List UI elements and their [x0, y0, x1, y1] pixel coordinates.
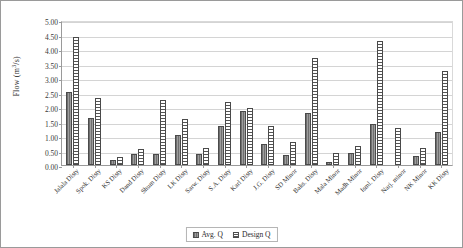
y-axis-tick-label: 0.00	[45, 163, 58, 172]
bar-design-q	[203, 148, 209, 165]
bar-avg-q	[261, 144, 267, 165]
bar-avg-q	[413, 156, 419, 165]
bar-design-q	[73, 37, 79, 165]
bar-avg-q	[326, 162, 332, 165]
bar-group	[430, 22, 452, 165]
bar-design-q	[182, 119, 188, 165]
bar-avg-q	[175, 135, 181, 165]
bar-avg-q	[153, 154, 159, 165]
bar-avg-q	[240, 111, 246, 165]
y-axis-tick-label: 3.00	[45, 76, 58, 85]
bar-avg-q	[88, 118, 94, 165]
y-axis-tick-label: 0.50	[45, 148, 58, 157]
bar-group	[409, 22, 431, 165]
bar-group	[149, 22, 171, 165]
bar-design-q	[290, 142, 296, 165]
bar-group	[214, 22, 236, 165]
bar-avg-q	[283, 155, 289, 165]
bar-group	[192, 22, 214, 165]
bar-design-q	[247, 108, 253, 165]
x-axis-tick-label: Karl Disty	[229, 167, 254, 192]
bar-group	[257, 22, 279, 165]
bar-avg-q	[305, 113, 311, 165]
y-axis-tick-label: 4.00	[45, 47, 58, 56]
bar-series-container	[62, 22, 452, 165]
y-axis-title: Flow (m3/s)	[11, 33, 22, 119]
y-axis-tick-label: 2.50	[45, 90, 58, 99]
bar-avg-q	[435, 132, 441, 165]
bar-design-q	[268, 126, 274, 165]
bar-group	[105, 22, 127, 165]
bar-group	[365, 22, 387, 165]
bar-avg-q	[110, 160, 116, 165]
chart-figure: Flow (m3/s) 0.000.501.001.502.002.503.00…	[0, 0, 463, 248]
bar-group	[235, 22, 257, 165]
bar-design-q	[95, 98, 101, 165]
bar-design-q	[442, 71, 448, 165]
bar-design-q	[312, 58, 318, 165]
bar-group	[322, 22, 344, 165]
bar-design-q	[117, 157, 123, 165]
bar-avg-q	[348, 153, 354, 165]
legend-swatch-design-q	[233, 232, 239, 238]
y-axis-title-exponent: 3	[11, 65, 17, 68]
y-axis-title-tail: /s)	[12, 56, 21, 65]
bar-avg-q	[218, 126, 224, 165]
x-axis-labels: Jalala DistySpok. DistyKS DistyDand Dist…	[61, 167, 453, 223]
bar-design-q	[333, 153, 339, 165]
y-axis-title-text: Flow (m	[12, 68, 21, 97]
bar-group	[387, 22, 409, 165]
bar-avg-q	[66, 92, 72, 165]
plot-area: 0.000.501.001.502.002.503.003.504.004.50…	[61, 21, 453, 166]
bar-group	[62, 22, 84, 165]
bar-design-q	[138, 149, 144, 165]
bar-group	[84, 22, 106, 165]
y-axis-tick-label: 1.00	[45, 134, 58, 143]
bar-design-q	[225, 102, 231, 165]
bar-design-q	[395, 128, 401, 165]
chart-legend: Avg. Q Design Q	[185, 227, 277, 242]
y-axis-tick-label: 4.50	[45, 32, 58, 41]
bar-group	[344, 22, 366, 165]
bar-avg-q	[131, 154, 137, 165]
y-axis-tick-label: 3.50	[45, 61, 58, 70]
bar-group	[300, 22, 322, 165]
bar-design-q	[420, 148, 426, 165]
legend-label-avg-q: Avg. Q	[201, 230, 223, 239]
bar-design-q	[377, 41, 383, 165]
legend-item-avg-q: Avg. Q	[192, 230, 223, 239]
y-axis-tick-label: 1.50	[45, 119, 58, 128]
legend-item-design-q: Design Q	[233, 230, 271, 239]
bar-avg-q	[196, 154, 202, 165]
bar-design-q	[160, 100, 166, 165]
bar-design-q	[355, 146, 361, 165]
y-axis-tick-label: 5.00	[45, 18, 58, 27]
legend-swatch-avg-q	[192, 232, 198, 238]
bar-group	[279, 22, 301, 165]
bar-group	[127, 22, 149, 165]
bar-avg-q	[370, 124, 376, 165]
y-axis-tick-label: 2.00	[45, 105, 58, 114]
legend-label-design-q: Design Q	[242, 230, 271, 239]
x-axis-tick-label: KK Disty	[427, 167, 451, 191]
x-axis-tick-label: J.G. Disty	[252, 167, 276, 191]
bar-group	[170, 22, 192, 165]
